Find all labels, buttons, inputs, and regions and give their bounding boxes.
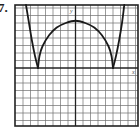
grid-lines (15, 5, 138, 126)
y-axis-label: y (69, 8, 73, 14)
left-outer-branch (26, 5, 38, 68)
x-axis-label: x (131, 69, 135, 75)
right-outer-branch (113, 5, 124, 68)
graph: y x (0, 0, 140, 129)
